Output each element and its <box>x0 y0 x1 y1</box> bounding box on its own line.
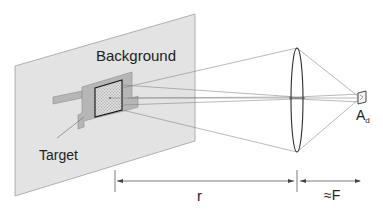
lens <box>291 48 303 152</box>
detector-area-label: Ad <box>356 107 370 125</box>
target-label: Target <box>39 147 78 163</box>
detector <box>358 91 366 104</box>
focal-length-label: ≈F <box>324 187 340 203</box>
optical-diagram: Background Target r ≈F Ad <box>0 0 383 211</box>
distance-r-label: r <box>197 187 202 204</box>
detector-label-sub: d <box>365 116 369 125</box>
background-label: Background <box>96 47 176 64</box>
